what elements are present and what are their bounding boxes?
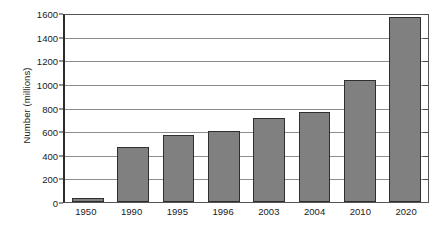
bar-slot	[292, 15, 337, 202]
x-tick-label: 2020	[383, 206, 429, 226]
bar-1950	[72, 198, 104, 202]
x-tick-label: 2003	[246, 206, 292, 226]
bar-slot	[383, 15, 428, 202]
y-tick-label: 1600	[37, 9, 58, 20]
y-tick-label: 1200	[37, 56, 58, 67]
bar-2010	[344, 80, 376, 202]
y-tick-label: 1000	[37, 79, 58, 90]
y-tick-label: 800	[42, 103, 58, 114]
x-tick-label: 2004	[292, 206, 338, 226]
bar-1995	[163, 135, 195, 202]
bar-1996	[208, 131, 240, 202]
y-axis-tick-labels: 02004006008001000120014001600	[34, 14, 63, 203]
bar-1990	[117, 147, 149, 202]
y-axis-title: Number (millions)	[17, 0, 35, 210]
y-tick-label: 1400	[37, 32, 58, 43]
bar-slot	[201, 15, 246, 202]
bar-2020	[389, 17, 421, 202]
bar-2004	[299, 112, 331, 202]
y-tick-label: 400	[42, 150, 58, 161]
x-tick-label: 1950	[63, 206, 109, 226]
bar-slot	[156, 15, 201, 202]
y-tick-label: 600	[42, 127, 58, 138]
x-tick-label: 2010	[338, 206, 384, 226]
x-tick-label: 1995	[155, 206, 201, 226]
x-axis-tick-labels: 19501990199519962003200420102020	[63, 206, 429, 226]
bar-slot	[65, 15, 110, 202]
y-tick-label: 0	[53, 198, 58, 209]
y-tick-label: 200	[42, 174, 58, 185]
bar-slot	[110, 15, 155, 202]
plot-area	[63, 14, 429, 203]
bar-slot	[337, 15, 382, 202]
x-tick-label: 1996	[200, 206, 246, 226]
x-tick-label: 1990	[109, 206, 155, 226]
y-axis-title-text: Number (millions)	[21, 67, 32, 143]
bar-slot	[247, 15, 292, 202]
bar-chart-figure: Number (millions) 0200400600800100012001…	[0, 0, 442, 239]
bar-2003	[253, 118, 285, 202]
bars-layer	[65, 15, 428, 202]
